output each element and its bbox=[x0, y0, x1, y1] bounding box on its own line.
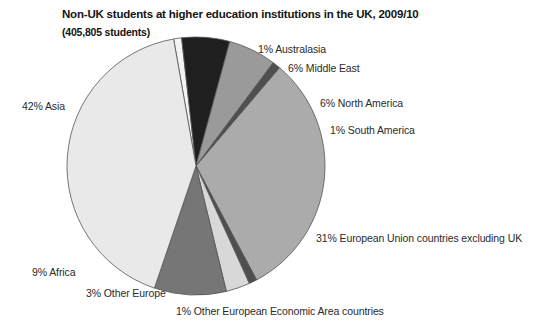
pie-chart-figure: Non-UK students at higher education inst… bbox=[0, 0, 536, 328]
slice-label-other-europe: 3% Other Europe bbox=[86, 287, 166, 299]
slice-label-asia: 42% Asia bbox=[22, 100, 65, 112]
slice-label-other-eea: 1% Other European Economic Area countrie… bbox=[176, 305, 384, 317]
pie-slice-group bbox=[67, 37, 325, 295]
slice-label-australasia: 1% Australasia bbox=[258, 43, 326, 55]
slice-label-european-union: 31% European Union countries excluding U… bbox=[316, 232, 522, 244]
slice-label-south-america: 1% South America bbox=[330, 124, 415, 136]
slice-label-north-america: 6% North America bbox=[320, 97, 403, 109]
slice-label-middle-east: 6% Middle East bbox=[288, 62, 360, 74]
slice-label-africa: 9% Africa bbox=[32, 266, 75, 278]
